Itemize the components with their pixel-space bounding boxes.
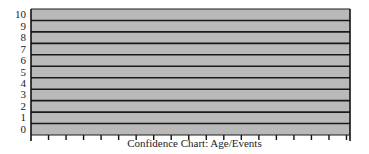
y-tick-label: 8 (2, 32, 26, 43)
y-tick-label: 10 (2, 9, 26, 20)
y-tick-label: 9 (2, 21, 26, 32)
plot-area (0, 0, 369, 154)
y-tick-label: 5 (2, 67, 26, 78)
y-tick-label: 1 (2, 112, 26, 123)
y-tick-label: 4 (2, 78, 26, 89)
chart-caption: Confidence Chart: Age/Events (0, 137, 369, 150)
band-fill (31, 9, 350, 135)
y-tick-label: 2 (2, 101, 26, 112)
y-tick-label: 0 (2, 124, 26, 135)
confidence-chart: 012345678910 Confidence Chart: Age/Event… (0, 0, 369, 154)
y-tick-label: 6 (2, 55, 26, 66)
y-tick-label: 7 (2, 44, 26, 55)
y-tick-label: 3 (2, 89, 26, 100)
